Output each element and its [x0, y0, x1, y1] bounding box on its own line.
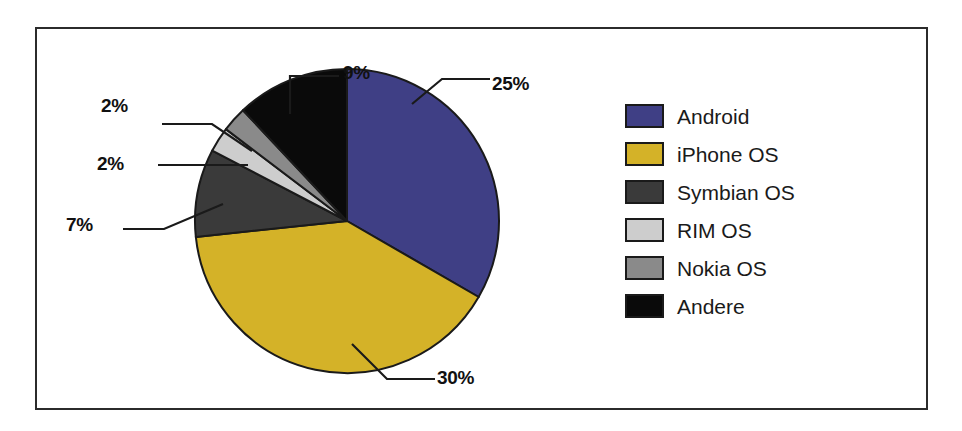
- data-label-andere: 9%: [343, 62, 370, 84]
- legend-item[interactable]: Nokia OS: [625, 249, 885, 287]
- legend-label: Nokia OS: [677, 258, 767, 279]
- data-label-symbian: 7%: [66, 214, 93, 236]
- legend-item[interactable]: RIM OS: [625, 211, 885, 249]
- legend: AndroidiPhone OSSymbian OSRIM OSNokia OS…: [625, 97, 885, 325]
- plot-area: 25% 30% 7% 2% 2% 9% AndroidiPhone OSSymb…: [37, 29, 930, 412]
- legend-label: Andere: [677, 296, 745, 317]
- data-label-rim: 2%: [97, 153, 124, 175]
- legend-swatch: [625, 142, 664, 166]
- data-label-iphone: 30%: [437, 367, 474, 389]
- legend-label: iPhone OS: [677, 144, 779, 165]
- legend-item[interactable]: iPhone OS: [625, 135, 885, 173]
- legend-swatch: [625, 256, 664, 280]
- legend-label: Android: [677, 106, 749, 127]
- chart-frame: 25% 30% 7% 2% 2% 9% AndroidiPhone OSSymb…: [35, 27, 928, 410]
- legend-swatch: [625, 218, 664, 242]
- legend-item[interactable]: Symbian OS: [625, 173, 885, 211]
- legend-item[interactable]: Andere: [625, 287, 885, 325]
- legend-label: Symbian OS: [677, 182, 795, 203]
- pie-slices: [195, 69, 499, 373]
- legend-swatch: [625, 180, 664, 204]
- legend-swatch: [625, 294, 664, 318]
- data-label-android: 25%: [492, 73, 529, 95]
- data-label-nokia: 2%: [101, 95, 128, 117]
- pie-chart: [187, 61, 507, 381]
- legend-swatch: [625, 104, 664, 128]
- legend-label: RIM OS: [677, 220, 752, 241]
- legend-item[interactable]: Android: [625, 97, 885, 135]
